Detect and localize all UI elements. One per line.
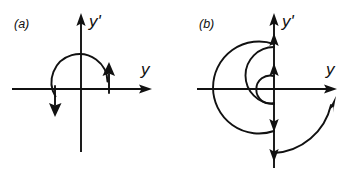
panel-a-closed-orbit xyxy=(49,54,115,117)
panel-b-spiral-arc-4 xyxy=(274,105,331,153)
panel-b-yprime-label: y' xyxy=(281,12,295,31)
panel-b-y-label: y xyxy=(325,60,336,79)
panel-a-orbit-arc xyxy=(52,54,108,96)
panel-b-caption: (b) xyxy=(199,17,214,31)
panel-a-yprime-label: y' xyxy=(88,12,102,31)
panel-b-spiral-arc-3 xyxy=(213,42,274,134)
panel-b: (b) y y' xyxy=(179,0,358,174)
figure-root: (a) y y' xyxy=(0,0,358,174)
panel-a-vertical-axis xyxy=(76,13,85,152)
panel-a-horizontal-axis xyxy=(12,84,152,93)
panel-a: (a) y y' xyxy=(0,0,179,174)
panel-a-y-label: y xyxy=(140,60,151,79)
panel-a-caption: (a) xyxy=(14,17,29,31)
panel-b-horizontal-axis xyxy=(197,84,337,93)
